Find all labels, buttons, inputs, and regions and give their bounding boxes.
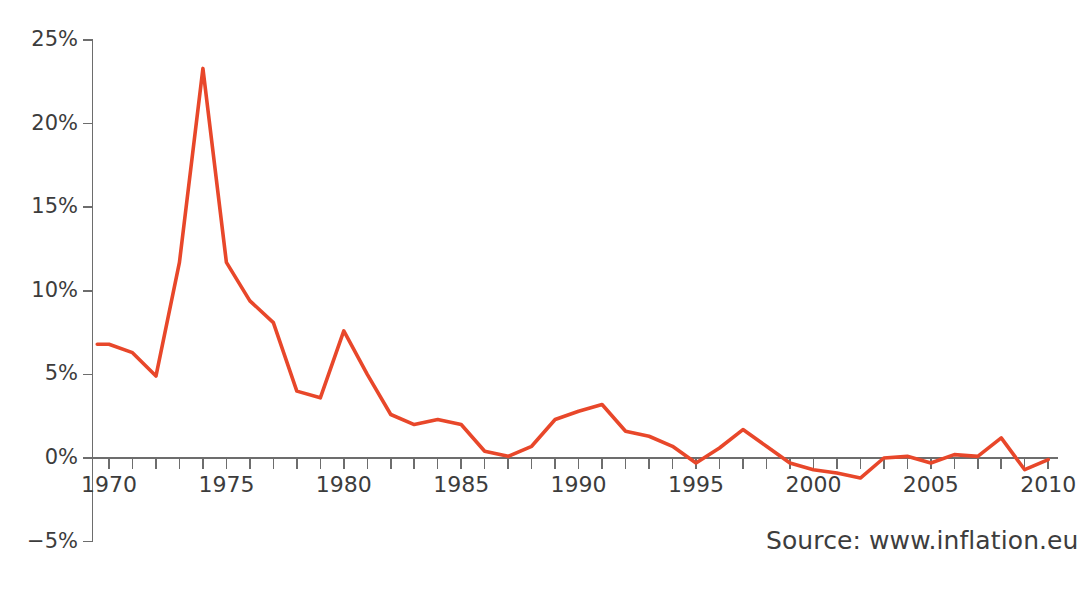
- x-tick-label: 1980: [304, 474, 384, 496]
- y-tick-label: 20%: [6, 113, 78, 134]
- source-note: Source: www.inflation.eu: [766, 526, 1079, 555]
- x-axis-ticks: [109, 458, 1048, 469]
- y-tick-label: 0%: [6, 447, 78, 468]
- x-tick-label: 2000: [773, 474, 853, 496]
- y-tick-label: −5%: [6, 531, 78, 552]
- x-tick-label: 2010: [1008, 474, 1087, 496]
- y-axis-ticks: [83, 40, 93, 542]
- x-tick-label: 2005: [891, 474, 971, 496]
- y-tick-label: 15%: [6, 196, 78, 217]
- y-tick-label: 25%: [6, 29, 78, 50]
- x-tick-label: 1990: [539, 474, 619, 496]
- inflation-line-chart: 25%20%15%10%5%0%−5% 19701975198019851990…: [0, 0, 1087, 591]
- axes-group: [83, 40, 1058, 542]
- y-tick-label: 10%: [6, 280, 78, 301]
- x-tick-label: 1970: [69, 474, 149, 496]
- y-tick-label: 5%: [6, 363, 78, 384]
- x-tick-label: 1995: [656, 474, 736, 496]
- x-tick-label: 1985: [421, 474, 501, 496]
- plot-canvas: [0, 0, 1087, 591]
- inflation-series-line: [97, 68, 1048, 478]
- x-tick-label: 1975: [186, 474, 266, 496]
